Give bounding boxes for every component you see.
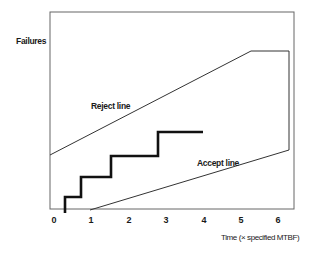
x-tick-5: 5 <box>238 215 243 225</box>
x-tick-4: 4 <box>201 215 206 225</box>
x-tick-1: 1 <box>88 215 93 225</box>
reject-line-label: Reject line <box>91 101 130 111</box>
failure-staircase <box>65 132 203 213</box>
y-axis-label: Failures <box>16 36 46 46</box>
chart-canvas <box>0 0 312 259</box>
reject-accept-boundary <box>50 51 289 210</box>
x-tick-6: 6 <box>275 215 280 225</box>
x-tick-0: 0 <box>51 215 56 225</box>
x-tick-3: 3 <box>163 215 168 225</box>
plot-frame <box>50 12 294 209</box>
x-axis-label: Time (× specified MTBF) <box>221 233 299 242</box>
x-tick-2: 2 <box>126 215 131 225</box>
accept-line-label: Accept line <box>197 158 239 168</box>
